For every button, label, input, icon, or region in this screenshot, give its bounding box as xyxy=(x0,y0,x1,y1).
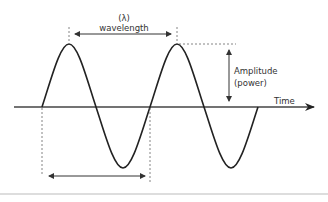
amplitude-label: Amplitude xyxy=(234,66,278,76)
lambda-label: (λ) xyxy=(118,13,130,23)
time-label: Time xyxy=(273,96,295,106)
wavelength-label: wavelength xyxy=(99,23,149,33)
wave-diagram: (λ) wavelength Amplitude (power) Time xyxy=(0,0,328,202)
power-label: (power) xyxy=(234,78,267,88)
